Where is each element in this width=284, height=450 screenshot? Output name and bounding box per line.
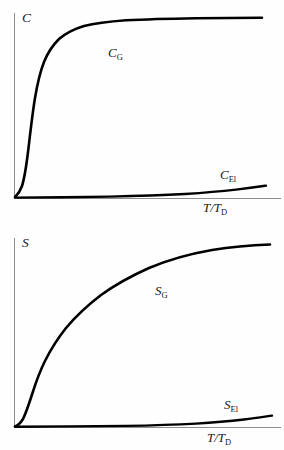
curve-label-s-lattice: SG	[155, 283, 168, 300]
curve-s-electronic	[15, 416, 272, 427]
curve-label-c-electronic: CEl	[220, 167, 237, 184]
curve-label-c-lattice: CG	[108, 45, 123, 62]
heat-capacity-panel: CG CEl C T/TD	[0, 0, 284, 225]
y-axis-label: C	[22, 10, 32, 25]
y-axis-label: S	[22, 235, 29, 250]
figure-container: CG CEl C T/TD SG SEl S T/TD	[0, 0, 284, 450]
curve-label-s-electronic: SEl	[224, 397, 239, 414]
x-axis-label: T/TD	[203, 200, 227, 217]
x-axis-label: T/TD	[207, 430, 231, 447]
curve-s-lattice	[15, 245, 270, 427]
curve-c-electronic	[15, 186, 266, 198]
entropy-panel: SG SEl S T/TD	[0, 225, 284, 450]
